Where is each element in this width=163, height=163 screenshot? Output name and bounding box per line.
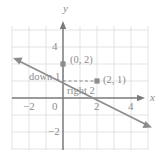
rise-label: down 1 (29, 72, 60, 83)
x-tick-label-2: 2 (94, 101, 100, 112)
graph-figure: y x −2 0 2 4 4 −2 (0, 2) (2, 1) down 1 r… (0, 0, 163, 163)
point-2-1 (94, 78, 99, 83)
x-axis-label: x (150, 92, 155, 103)
run-label: right 2 (67, 86, 95, 97)
y-tick-label-minus2: −2 (48, 126, 60, 137)
y-axis (60, 21, 66, 150)
point-label-0-2: (0, 2) (70, 55, 93, 66)
x-tick-label-4: 4 (128, 101, 134, 112)
point-0-2 (60, 61, 65, 66)
x-tick-label-0: 0 (52, 101, 58, 112)
y-tick-label-4: 4 (52, 41, 58, 52)
coordinate-plane (0, 0, 163, 163)
point-label-2-1: (2, 1) (103, 75, 126, 86)
y-axis-label: y (63, 3, 68, 14)
x-tick-label-minus2: −2 (23, 101, 35, 112)
